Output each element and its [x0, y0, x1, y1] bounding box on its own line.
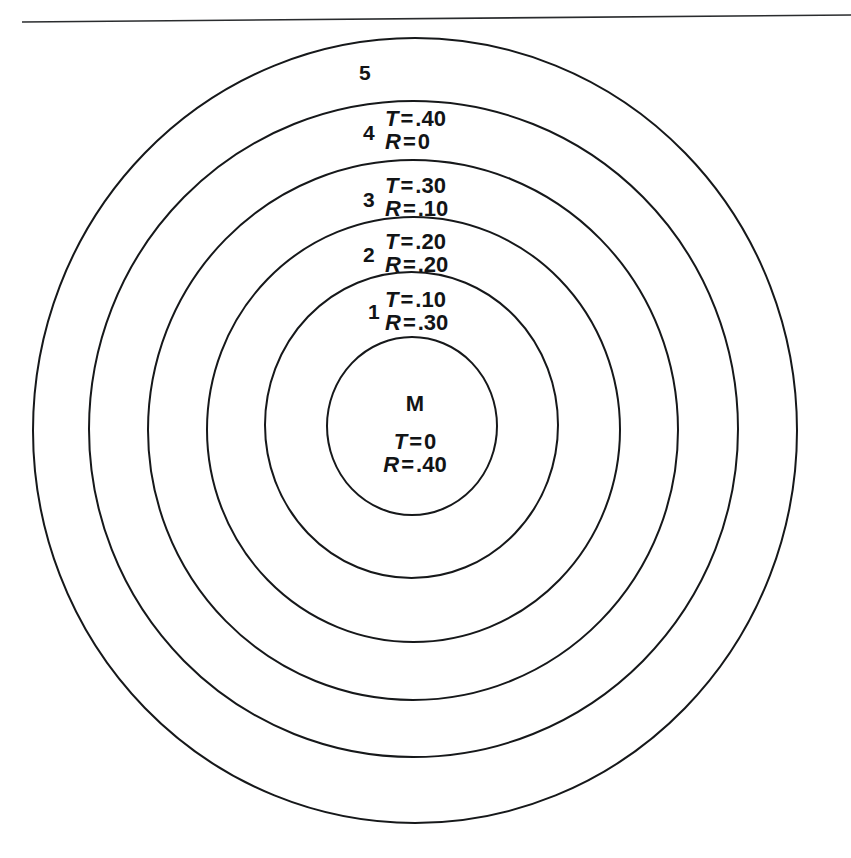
ring-3-transmission-line: T=.30 — [385, 174, 448, 197]
ring-1-reflection-variable: R — [385, 310, 402, 335]
ring-5-number-label: 5 — [359, 62, 371, 84]
ring-3-reflection-equals-sign: = — [402, 196, 418, 221]
ring-1-transmission-equals-sign: = — [399, 287, 415, 312]
ring-2-reflection-equals-sign: = — [402, 252, 418, 277]
ring-4-reflection-value: 0 — [418, 129, 430, 154]
ring-4-reflection-equals-sign: = — [402, 129, 418, 154]
ring-4-reflection-line: R=0 — [385, 130, 446, 153]
ring-3-transmission-variable: T — [385, 173, 399, 198]
ring-2-reflection-value: .20 — [418, 252, 449, 277]
ring-1-transmission-value: .10 — [415, 287, 446, 312]
ring-2-number-label: 2 — [363, 244, 375, 266]
ring-1-reflection-line: R=.30 — [385, 311, 448, 334]
ring-4-transmission-value: .40 — [415, 106, 446, 131]
ring-2-reflection-line: R=.20 — [385, 253, 448, 276]
ring-1-reflection-equals-sign: = — [402, 310, 418, 335]
target-diagram-figure: 54T=.40R=03T=.30R=.102T=.20R=.201T=.10R=… — [0, 0, 851, 858]
ring-1-reflection-value: .30 — [418, 310, 449, 335]
ring-3-reflection-line: R=.10 — [385, 197, 448, 220]
ring-1-transmission-line: T=.10 — [385, 288, 448, 311]
ring-3-number-label: 3 — [363, 189, 375, 211]
center-letter-label: M — [385, 392, 445, 415]
center-transmission-line: T=0 — [355, 430, 475, 453]
ring-4-reflection-variable: R — [385, 129, 402, 154]
ring-2-transmission-equals-sign: = — [399, 229, 415, 254]
center-reflection-value: .40 — [416, 452, 447, 477]
ring-2-transmission-variable: T — [385, 229, 399, 254]
ring-3-transmission-value: .30 — [415, 173, 446, 198]
ring-2-transmission-value: .20 — [415, 229, 446, 254]
center-transmission-equals-sign: = — [408, 429, 424, 454]
ring-M-outline — [327, 337, 497, 515]
ring-3-reflection-value: .10 — [418, 196, 449, 221]
ring-2-reflection-variable: R — [385, 252, 402, 277]
ring-1-values: T=.10R=.30 — [385, 288, 448, 335]
ring-3-values: T=.30R=.10 — [385, 174, 448, 221]
ring-4-values: T=.40R=0 — [385, 107, 446, 154]
center-reflection-equals-sign: = — [400, 452, 416, 477]
ring-4-number-label: 4 — [363, 122, 375, 144]
ring-2-values: T=.20R=.20 — [385, 230, 448, 277]
center-values: T=0R=.40 — [355, 430, 475, 477]
center-reflection-variable: R — [383, 452, 400, 477]
center-reflection-line: R=.40 — [355, 453, 475, 476]
ring-4-transmission-equals-sign: = — [399, 106, 415, 131]
ring-4-transmission-line: T=.40 — [385, 107, 446, 130]
center-transmission-value: 0 — [424, 429, 436, 454]
ring-3-transmission-equals-sign: = — [399, 173, 415, 198]
ring-4-transmission-variable: T — [385, 106, 399, 131]
ring-1-transmission-variable: T — [385, 287, 399, 312]
ring-2-transmission-line: T=.20 — [385, 230, 448, 253]
ring-3-reflection-variable: R — [385, 196, 402, 221]
ring-1-number-label: 1 — [368, 301, 380, 323]
center-transmission-variable: T — [394, 429, 408, 454]
